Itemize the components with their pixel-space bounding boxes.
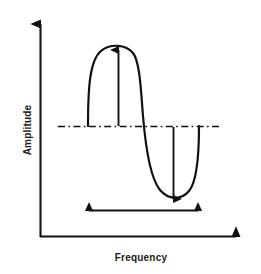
x-axis-title: Frequency xyxy=(95,252,187,263)
amplitude-frequency-plot xyxy=(0,0,261,274)
response-curve xyxy=(88,46,199,198)
y-axis-title: Amplitude xyxy=(22,70,33,190)
figure-container: Amplitude Frequency xyxy=(0,0,261,274)
